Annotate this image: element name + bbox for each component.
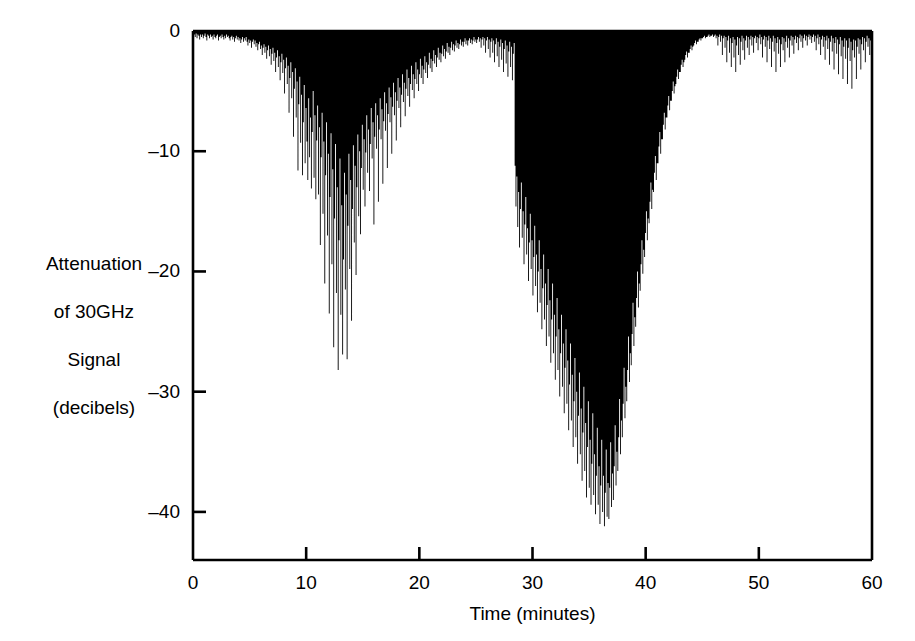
chart-figure: Attenuation of 30GHz Signal (decibels) T…: [0, 0, 915, 641]
y-tick-label: –10: [110, 140, 180, 162]
y-tick-label: –20: [110, 260, 180, 282]
x-tick-label: 60: [861, 572, 882, 594]
y-axis-label-line-2: of 30GHz: [18, 300, 170, 324]
x-tick-label: 10: [296, 572, 317, 594]
x-tick-label: 50: [748, 572, 769, 594]
plot-area: [193, 31, 872, 560]
x-axis-label: Time (minutes): [193, 603, 872, 625]
x-tick-label: 30: [522, 572, 543, 594]
y-tick-label: –30: [110, 381, 180, 403]
attenuation-area-series: [193, 31, 872, 526]
x-tick-label: 0: [188, 572, 199, 594]
y-axis-label-line-3: Signal: [18, 348, 170, 372]
tick-marks: [193, 151, 759, 560]
x-tick-label: 20: [409, 572, 430, 594]
y-tick-label: –40: [110, 501, 180, 523]
x-tick-label: 40: [635, 572, 656, 594]
y-tick-label: 0: [110, 20, 180, 42]
